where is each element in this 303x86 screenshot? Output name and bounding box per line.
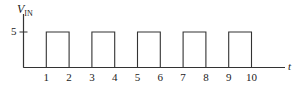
x-tick-label: 9 (226, 72, 232, 83)
x-tick-label: 3 (89, 72, 95, 83)
x-tick-label: 8 (203, 72, 209, 83)
x-tick-label: 5 (135, 72, 141, 83)
x-tick-label: 4 (112, 72, 118, 83)
x-tick-label: 2 (66, 72, 72, 83)
x-tick-label: 1 (44, 72, 50, 83)
x-axis-label: t (288, 61, 291, 72)
y-tick-label: 5 (11, 26, 17, 37)
y-axis-label: VIN (17, 3, 33, 18)
x-tick-label: 6 (158, 72, 164, 83)
signal-trace (24, 32, 279, 68)
x-tick-label: 10 (246, 72, 257, 83)
x-tick-label: 7 (180, 72, 186, 83)
square-wave-chart: VIN 5 t 12345678910 (0, 0, 303, 86)
